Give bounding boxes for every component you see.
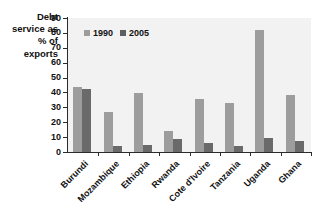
bar-mozambique-2005	[113, 146, 122, 152]
y-axis-line	[67, 17, 68, 153]
y-axis-tick-mark	[63, 92, 67, 93]
legend-label: 2005	[129, 28, 149, 38]
y-axis-tick-mark	[63, 63, 67, 64]
bar-mozambique-1990	[104, 112, 113, 152]
bar-rwanda-2005	[173, 139, 182, 152]
bar-cote-d-ivoire-2005	[204, 143, 213, 152]
y-axis-tick-label: 30	[39, 103, 61, 112]
y-axis-tick-mark	[63, 137, 67, 138]
y-axis-tick-label: 90	[39, 14, 61, 23]
y-axis-tick-mark	[63, 18, 67, 19]
debt-service-bar-chart: Debt service as % of exports 01020304050…	[0, 0, 315, 212]
x-axis-tick-mark	[159, 152, 160, 156]
bar-burundi-1990	[73, 87, 82, 152]
bar-cote-d-ivoire-1990	[195, 99, 204, 152]
legend-entry-1990: 1990	[84, 28, 113, 38]
y-axis-tick-mark	[63, 152, 67, 153]
bar-rwanda-1990	[164, 131, 173, 152]
x-axis-tick-mark	[190, 152, 191, 156]
y-axis-tick-label: 20	[39, 118, 61, 127]
legend-swatch-icon	[84, 30, 90, 36]
y-axis-tick-label: 60	[39, 58, 61, 67]
y-axis-tick-label: 40	[39, 88, 61, 97]
y-axis-tick-mark	[63, 78, 67, 79]
bar-ghana-2005	[295, 141, 304, 152]
y-axis-tick-mark	[63, 122, 67, 123]
legend: 1990 2005	[84, 28, 149, 38]
y-axis-tick-label: 50	[39, 73, 61, 82]
y-axis-tick-label: 0	[39, 148, 61, 157]
bar-tanzania-2005	[234, 146, 243, 152]
y-axis-tick-mark	[63, 107, 67, 108]
bar-ghana-1990	[286, 95, 295, 152]
x-axis-tick-mark	[220, 152, 221, 156]
y-axis-tick-label: 80	[39, 28, 61, 37]
legend-entry-2005: 2005	[120, 28, 149, 38]
legend-swatch-icon	[120, 30, 126, 36]
x-axis-tick-mark	[129, 152, 130, 156]
legend-label: 1990	[93, 28, 113, 38]
x-axis-tick-mark	[250, 152, 251, 156]
y-axis-tick-mark	[63, 33, 67, 34]
y-axis-tick-label: 70	[39, 43, 61, 52]
bar-ethiopia-1990	[134, 93, 143, 152]
bar-tanzania-1990	[225, 103, 234, 152]
y-axis-tick-mark	[63, 48, 67, 49]
bar-burundi-2005	[82, 89, 91, 152]
bar-ethiopia-2005	[143, 145, 152, 152]
x-axis-tick-mark	[281, 152, 282, 156]
x-axis-tick-mark	[98, 152, 99, 156]
y-axis-tick-label: 10	[39, 133, 61, 142]
bar-uganda-2005	[264, 138, 273, 152]
x-axis-tick-mark	[311, 152, 312, 156]
bar-uganda-1990	[255, 30, 264, 152]
